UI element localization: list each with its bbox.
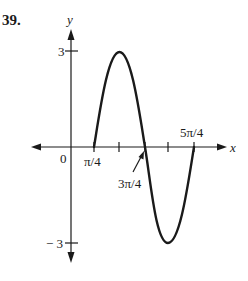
y-axis-up-arrow-icon: [68, 29, 75, 40]
x-axis-right-arrow-icon: [217, 144, 227, 151]
y-tick-label-3: 3: [58, 44, 65, 59]
x-tick-label-3pi-4: 3π/4: [118, 176, 142, 191]
y-tick-label-neg3: − 3: [46, 236, 63, 251]
annotation-arrowhead-icon: [139, 151, 145, 160]
origin-label: 0: [60, 151, 67, 166]
x-axis: [31, 144, 227, 151]
y-axis-label: y: [65, 12, 73, 27]
x-axis-label: x: [229, 140, 236, 155]
y-axis-down-arrow-icon: [68, 252, 75, 263]
annotation-arrow: [133, 151, 144, 172]
x-axis-left-arrow-icon: [31, 144, 41, 151]
x-tick-label-pi-4: π/4: [84, 154, 101, 169]
sine-graph: y x 0 3 − 3 π/4 3π/4 5π/4: [0, 0, 248, 281]
x-tick-label-5pi-4: 5π/4: [180, 125, 204, 140]
y-axis: [68, 29, 75, 263]
